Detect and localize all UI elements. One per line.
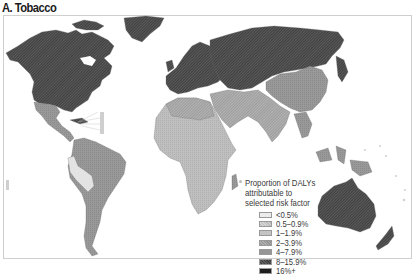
legend-bullet-icon	[239, 180, 242, 183]
legend-title-line: selected risk factor	[245, 198, 315, 208]
legend-swatch	[259, 221, 272, 227]
legend-item: 0.5–0.9%	[259, 219, 331, 228]
legend-swatch	[259, 249, 272, 255]
legend-item: 16%+	[259, 266, 331, 275]
legend-swatch	[259, 212, 272, 218]
region-north-america	[6, 16, 164, 112]
legend-swatch	[259, 240, 272, 246]
legend-items: <0.5% 0.5–0.9% 1–1.9% 2–3.9% 4–7.9% 8–15…	[259, 210, 331, 276]
legend-item: 4–7.9%	[259, 248, 331, 257]
legend-swatch	[259, 230, 272, 236]
legend-title: Proportion of DALYs attributable to sele…	[245, 178, 315, 208]
legend-swatch	[259, 268, 272, 274]
legend-item: 8–15.9%	[259, 257, 331, 266]
region-southeast-asia	[294, 112, 372, 176]
legend-swatch	[259, 259, 272, 265]
legend: Proportion of DALYs attributable to sele…	[259, 178, 331, 276]
legend-item: <0.5%	[259, 210, 331, 219]
legend-item: 2–3.9%	[259, 238, 331, 247]
legend-item: 1–1.9%	[259, 229, 331, 238]
legend-label: 16%+	[276, 266, 296, 276]
region-south-america	[68, 138, 126, 256]
